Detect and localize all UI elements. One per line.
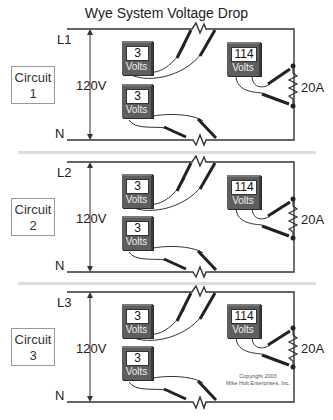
meter-unit: Volts	[122, 236, 151, 247]
meter-unit: Volts	[122, 366, 151, 377]
meter-display: 3	[126, 351, 149, 366]
voltmeter-load: 114 Volts	[227, 175, 261, 209]
load-current-label: 20A	[301, 341, 324, 356]
circuit-box-number: 1	[12, 86, 54, 102]
copyright-line-1: Copyright 2003	[218, 373, 298, 380]
circuit-box-number: 2	[12, 218, 54, 234]
meter-unit: Volts	[227, 324, 259, 335]
meter-display: 114	[231, 309, 257, 324]
circuit-panel-3: L3 N 120V Circuit 3 3 Volts 3 Volts 114 …	[0, 262, 333, 402]
circuit-box: Circuit 1	[11, 66, 55, 104]
voltmeter-line: 3 Volts	[122, 174, 153, 208]
circuit-box-title: Circuit	[12, 332, 54, 348]
line-label: L3	[57, 295, 71, 310]
voltmeter-neutral: 3 Volts	[122, 216, 153, 250]
load-current-label: 20A	[301, 212, 324, 227]
copyright-notice: Copyright 2003 Mike Holt Enterprises, In…	[218, 373, 298, 387]
voltmeter-load: 114 Volts	[227, 42, 261, 76]
copyright-line-2: Mike Holt Enterprises, Inc.	[218, 380, 298, 387]
voltmeter-load: 114 Volts	[227, 304, 261, 338]
circuit-box-title: Circuit	[12, 70, 54, 86]
voltmeter-line: 3 Volts	[122, 41, 153, 75]
circuit-box-title: Circuit	[12, 202, 54, 218]
line-label: L2	[57, 165, 71, 180]
neutral-label: N	[55, 388, 64, 403]
meter-display: 3	[126, 221, 149, 236]
source-voltage-label: 120V	[76, 78, 106, 93]
meter-display: 3	[126, 46, 149, 61]
meter-display: 114	[231, 47, 257, 62]
circuit-box-number: 3	[12, 348, 54, 364]
circuit-box: Circuit 3	[11, 328, 55, 366]
load-current-label: 20A	[301, 80, 324, 95]
source-voltage-label: 120V	[76, 341, 106, 356]
meter-display: 114	[231, 180, 257, 195]
circuit-box: Circuit 2	[11, 198, 55, 236]
line-label: L1	[57, 32, 71, 47]
voltmeter-neutral: 3 Volts	[122, 84, 153, 118]
source-voltage-label: 120V	[76, 211, 106, 226]
voltmeter-line: 3 Volts	[122, 304, 153, 338]
meter-unit: Volts	[122, 61, 151, 72]
meter-unit: Volts	[227, 62, 259, 73]
circuit-panel-2: L2 N 120V Circuit 2 3 Volts 3 Volts 114 …	[0, 132, 333, 272]
meter-unit: Volts	[227, 195, 259, 206]
voltmeter-neutral: 3 Volts	[122, 346, 153, 380]
meter-display: 3	[126, 309, 149, 324]
meter-display: 3	[126, 179, 149, 194]
meter-unit: Volts	[122, 104, 151, 115]
meter-unit: Volts	[122, 194, 151, 205]
circuit-panel-1: L1 N 120V Circuit 1 3 Volts 3 Volts 114 …	[0, 0, 333, 140]
meter-display: 3	[126, 89, 149, 104]
meter-unit: Volts	[122, 324, 151, 335]
